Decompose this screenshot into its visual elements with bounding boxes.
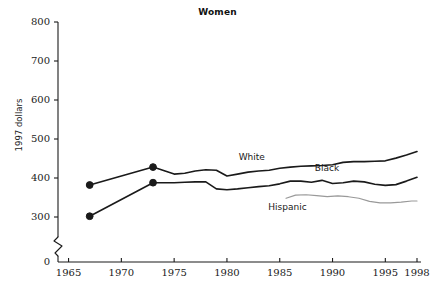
x-tick-label: 1975	[151, 267, 197, 278]
x-tick-label: 1980	[204, 267, 250, 278]
data-markers	[86, 164, 156, 220]
y-tick-label: 800	[14, 16, 50, 27]
series-label-white: White	[239, 152, 265, 162]
y-tick-label: 300	[14, 211, 50, 222]
x-tick-label: 1990	[310, 267, 356, 278]
series-label-hispanic: Hispanic	[268, 202, 306, 212]
y-tick-label: 500	[14, 133, 50, 144]
y-tick-label: 0	[14, 256, 50, 267]
x-tick-label: 1985	[257, 267, 303, 278]
series-line-black	[90, 177, 417, 216]
x-tick-label: 1998	[394, 267, 435, 278]
series-label-black: Black	[315, 163, 339, 173]
y-tick-label: 400	[14, 172, 50, 183]
x-tick-label: 1970	[98, 267, 144, 278]
chart-figure: Women 1997 dollars 0300400500600700800 1…	[0, 0, 435, 289]
y-tick-label: 700	[14, 55, 50, 66]
y-axis-break-symbol	[54, 237, 62, 256]
plot-area	[0, 0, 435, 289]
data-point-marker	[86, 213, 93, 220]
y-tick-label: 600	[14, 94, 50, 105]
axes	[54, 22, 421, 262]
data-point-marker	[150, 164, 157, 171]
x-tick-label: 1965	[46, 267, 92, 278]
data-point-marker	[86, 182, 93, 189]
data-point-marker	[150, 179, 157, 186]
